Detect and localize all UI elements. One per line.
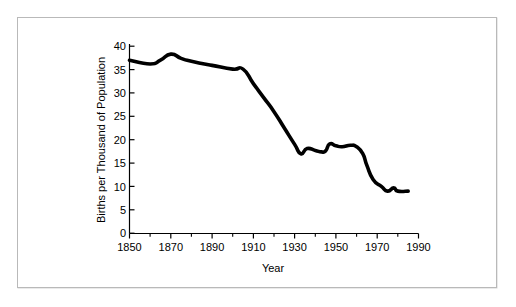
- y-tick-label: 35: [114, 64, 126, 76]
- x-tick-label: 1890: [200, 241, 224, 253]
- y-tick-label: 10: [114, 181, 126, 193]
- y-tick-label: 40: [114, 40, 126, 52]
- x-tick-label: 1970: [365, 241, 389, 253]
- y-axis-title: Births per Thousand of Population: [95, 57, 107, 223]
- x-tick-label: 1870: [159, 241, 183, 253]
- y-tick-label: 30: [114, 87, 126, 99]
- birth-rate-line-chart: 0 5 10 15 20 25 30 35 40: [0, 0, 516, 307]
- y-tick-label: 0: [120, 227, 126, 239]
- x-tick-label: 1990: [406, 241, 430, 253]
- x-tick-label: 1950: [324, 241, 348, 253]
- x-axis-title: Year: [262, 262, 285, 274]
- y-axis-ticks: [130, 46, 135, 233]
- birth-rate-data-line: [130, 54, 409, 191]
- x-tick-label: 1850: [117, 241, 141, 253]
- y-tick-label: 20: [114, 134, 126, 146]
- x-tick-label: 1910: [241, 241, 265, 253]
- y-tick-label: 5: [120, 204, 126, 216]
- y-tick-label: 15: [114, 157, 126, 169]
- figure-root: 0 5 10 15 20 25 30 35 40: [0, 0, 516, 307]
- y-axis-tick-labels: 0 5 10 15 20 25 30 35 40: [114, 40, 126, 239]
- chart-plot-area: 0 5 10 15 20 25 30 35 40: [0, 0, 516, 307]
- x-axis-tick-labels: 1850 1870 1890 1910 1930 1950 1970 1990: [117, 241, 430, 253]
- x-tick-label: 1930: [282, 241, 306, 253]
- y-tick-label: 25: [114, 110, 126, 122]
